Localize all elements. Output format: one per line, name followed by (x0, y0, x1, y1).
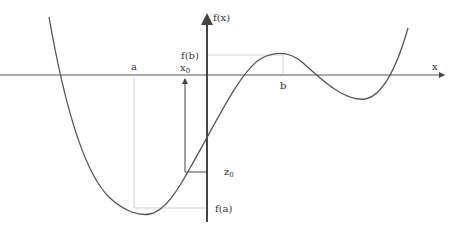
label-b: b (280, 80, 286, 91)
guide-lines (134, 55, 283, 208)
y-axis-label: f(x) (213, 12, 230, 23)
label-z0: z0 (224, 166, 234, 179)
label-fa: f(a) (215, 203, 233, 214)
diagram-canvas: f(x) x a b f(b) f(a) x0 z0 (0, 0, 468, 234)
label-fb: f(b) (181, 50, 199, 61)
x-axis-label: x (432, 61, 438, 72)
label-x0: x0 (180, 62, 190, 75)
label-a: a (131, 61, 137, 72)
function-curve (49, 17, 408, 214)
